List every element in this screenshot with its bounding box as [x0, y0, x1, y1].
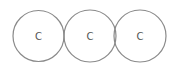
- atom-1: C: [13, 11, 64, 62]
- atom-label: C: [137, 31, 144, 42]
- atom-label: C: [35, 31, 42, 42]
- atom-label: C: [87, 31, 94, 42]
- atom-2: C: [64, 10, 116, 62]
- atom-3: C: [114, 10, 166, 62]
- carbon-chain-diagram: C C C: [0, 0, 178, 65]
